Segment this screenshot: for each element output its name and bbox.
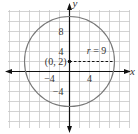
coordinate-diagram: xy−4484−4(0, 2)r = 9 bbox=[0, 0, 138, 134]
y-tick-label: −4 bbox=[53, 86, 64, 97]
x-tick-label: 4 bbox=[87, 73, 92, 84]
x-tick-label: −4 bbox=[44, 73, 55, 84]
x-axis-label: x bbox=[129, 65, 135, 77]
x-axis-arrow-left bbox=[5, 69, 12, 74]
radius-label: r = 9 bbox=[87, 45, 107, 56]
radius-value: = 9 bbox=[93, 45, 106, 56]
center-label: (0, 2) bbox=[45, 56, 67, 68]
y-tick-label: 8 bbox=[59, 26, 64, 37]
center-point bbox=[68, 60, 72, 64]
y-axis-arrow-up bbox=[67, 3, 72, 10]
y-axis-arrow-down bbox=[67, 126, 72, 133]
axes bbox=[5, 3, 131, 133]
y-axis-label: y bbox=[72, 0, 78, 9]
